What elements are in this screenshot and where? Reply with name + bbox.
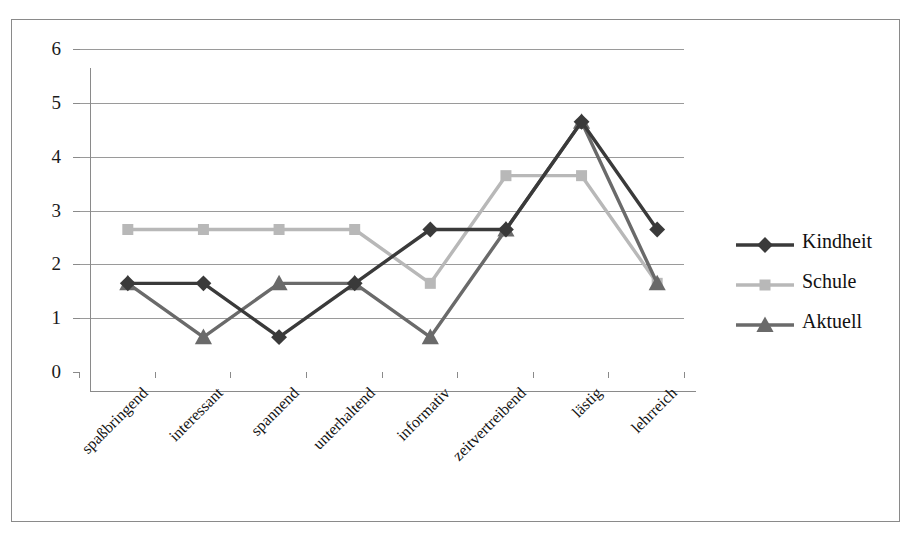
- y-tick-label: 0: [21, 362, 61, 381]
- legend-marker-square-icon: [734, 277, 796, 293]
- x-tick-mark: [155, 372, 156, 378]
- data-point-marker: [500, 170, 511, 181]
- data-point-marker: [271, 329, 287, 345]
- chart-legend: KindheitSchuleAktuell: [734, 225, 904, 345]
- gridline: [79, 157, 684, 158]
- legend-marker-diamond-icon: [734, 237, 796, 253]
- y-tick-mark: [73, 157, 80, 158]
- data-point-marker: [119, 275, 136, 291]
- x-tick-mark: [608, 372, 609, 378]
- data-point-marker: [649, 275, 666, 291]
- legend-label: Schule: [802, 269, 856, 293]
- y-tick-label: 3: [21, 201, 61, 220]
- y-tick-label: 1: [21, 308, 61, 327]
- legend-item-kindheit[interactable]: Kindheit: [734, 225, 904, 265]
- data-point-marker: [347, 275, 363, 291]
- x-tick-mark: [306, 372, 307, 378]
- data-point-marker: [573, 113, 590, 129]
- data-point-marker: [274, 224, 285, 235]
- x-tick-label: unterhaltend: [224, 384, 378, 538]
- legend-label: Kindheit: [802, 229, 872, 253]
- series-kindheit: [120, 114, 665, 345]
- x-tick-mark: [533, 372, 534, 378]
- gridline: [79, 103, 684, 104]
- y-tick-mark: [73, 318, 80, 319]
- x-tick-mark: [382, 372, 383, 378]
- data-point-marker: [652, 278, 663, 289]
- x-axis-line: [90, 391, 696, 392]
- data-point-marker: [574, 114, 590, 130]
- x-tick-mark: [457, 372, 458, 378]
- y-tick-label: 4: [21, 147, 61, 166]
- chart-frame: 0123456 spaßbringendinteressantspannendu…: [11, 19, 900, 522]
- x-tick-mark: [684, 372, 685, 378]
- x-tick-mark: [79, 372, 80, 378]
- data-point-marker: [198, 224, 209, 235]
- series-line: [128, 122, 657, 337]
- gridline: [79, 49, 684, 50]
- data-point-marker: [196, 275, 212, 291]
- gridline: [79, 264, 684, 265]
- y-tick-label: 6: [21, 39, 61, 58]
- legend-label: Aktuell: [802, 309, 862, 333]
- y-tick-mark: [73, 211, 80, 212]
- data-point-marker: [425, 278, 436, 289]
- data-point-marker: [498, 222, 514, 238]
- legend-item-schule[interactable]: Schule: [734, 265, 904, 305]
- y-tick-mark: [73, 49, 80, 50]
- gridline: [79, 318, 684, 319]
- data-point-marker: [422, 222, 438, 238]
- line-chart: 0123456 spaßbringendinteressantspannendu…: [0, 0, 917, 542]
- series-aktuell: [119, 113, 666, 344]
- x-tick-label: spannend: [149, 384, 303, 538]
- x-tick-label: informativ: [300, 384, 454, 538]
- y-axis-line: [90, 68, 91, 392]
- series-schule: [122, 170, 662, 289]
- legend-item-aktuell[interactable]: Aktuell: [734, 305, 904, 345]
- x-tick-label: spaßbringend: [0, 384, 152, 538]
- legend-marker-triangle-icon: [734, 317, 796, 333]
- data-point-marker: [497, 221, 514, 237]
- data-point-marker: [195, 329, 212, 345]
- y-tick-mark: [73, 103, 80, 104]
- data-point-marker: [349, 224, 360, 235]
- y-tick-label: 5: [21, 93, 61, 112]
- gridline: [79, 211, 684, 212]
- data-point-marker: [576, 170, 587, 181]
- data-point-marker: [270, 275, 287, 291]
- data-point-marker: [120, 275, 136, 291]
- x-tick-mark: [230, 372, 231, 378]
- data-point-marker: [422, 329, 439, 345]
- series-line: [128, 122, 657, 337]
- y-tick-mark: [73, 264, 80, 265]
- x-tick-label: lästig: [451, 384, 605, 538]
- y-tick-label: 2: [21, 254, 61, 273]
- x-tick-label: zeitvertreibend: [376, 384, 530, 538]
- x-tick-label: interessant: [73, 384, 227, 538]
- data-point-marker: [346, 275, 363, 291]
- series-line: [128, 176, 657, 284]
- x-tick-label: lehrreich: [527, 384, 681, 538]
- data-point-marker: [649, 222, 665, 238]
- data-point-marker: [122, 224, 133, 235]
